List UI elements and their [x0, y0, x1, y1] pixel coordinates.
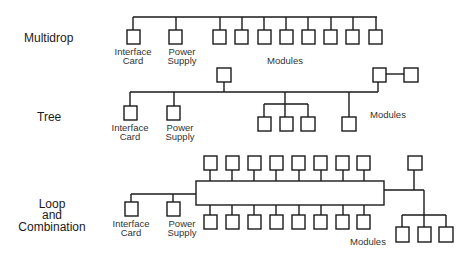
module-box: [373, 68, 386, 82]
interface-card-label-2: Card: [120, 131, 141, 142]
loop-ring: [196, 181, 384, 205]
module-box: [324, 30, 337, 44]
module-box: [280, 117, 293, 131]
multidrop-section: Multidrop Interface: [24, 17, 382, 66]
module-box: [258, 30, 271, 44]
power-supply-label-2: Supply: [167, 55, 196, 66]
module-box: [439, 227, 453, 242]
interface-card-box: [124, 106, 137, 120]
power-supply-label-2: Supply: [167, 227, 196, 238]
interface-card-box: [125, 202, 138, 216]
module-box: [404, 68, 418, 82]
module-box: [213, 30, 226, 44]
multidrop-modules: [213, 30, 382, 44]
interface-card-label-2: Card: [121, 227, 142, 238]
module-box: [396, 227, 409, 242]
modules-label: Modules: [350, 236, 386, 247]
module-box: [258, 117, 271, 131]
module-box: [408, 156, 422, 170]
topology-diagram: Multidrop Interface: [0, 0, 469, 259]
power-supply-label-2: Supply: [165, 131, 194, 142]
modules-label: Modules: [370, 109, 406, 120]
module-box: [342, 117, 356, 131]
loop-section: Loop and Combination: [18, 156, 453, 247]
module-box: [217, 68, 231, 82]
module-box: [369, 30, 382, 44]
module-box: [235, 30, 248, 44]
multidrop-drops: [133, 17, 376, 30]
tree-title: Tree: [37, 110, 62, 124]
tree-section: Tree Interface Card Power Supply Modules: [37, 68, 418, 142]
module-box: [301, 117, 315, 131]
modules-label: Modules: [267, 55, 303, 66]
module-box: [280, 30, 293, 44]
multidrop-title: Multidrop: [24, 31, 74, 45]
module-box: [346, 30, 359, 44]
interface-card-label-2: Card: [123, 55, 144, 66]
loop-title-line-3: Combination: [18, 220, 85, 234]
module-box: [418, 227, 431, 242]
power-supply-box: [169, 30, 182, 44]
loop-bottom-modules: [204, 205, 370, 229]
power-supply-box: [167, 202, 180, 216]
power-supply-box: [167, 106, 180, 120]
interface-card-box: [127, 30, 140, 44]
loop-top-modules: [204, 156, 370, 181]
module-box: [302, 30, 315, 44]
